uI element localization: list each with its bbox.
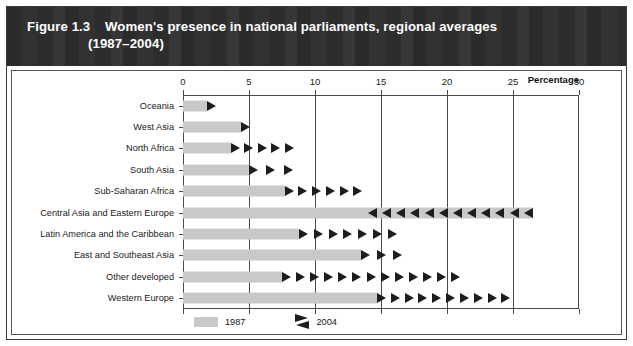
category-label: Sub-Saharan Africa <box>94 186 174 196</box>
category-label: South Asia <box>130 165 174 175</box>
marker-triangle-right <box>282 272 291 282</box>
marker-triangle-right <box>258 143 267 153</box>
marker-triangle-right <box>432 293 441 303</box>
marker-trail-2004 <box>368 207 533 219</box>
category-label: Oceania <box>140 101 174 111</box>
chart-area: Percentage 051015202530 OceaniaWest Asia… <box>12 71 623 336</box>
bar-1987 <box>183 229 299 240</box>
marker-trail-2004 <box>299 228 397 240</box>
axis-caption-percentage: Percentage <box>528 74 579 85</box>
marker-triangle-right <box>488 293 497 303</box>
chart-row: Central Asia and Eastern Europe <box>183 202 579 223</box>
marker-triangle-right <box>377 250 386 260</box>
marker-triangle-right <box>271 143 280 153</box>
marker-triangle-left <box>396 208 405 218</box>
marker-triangle-left <box>510 208 519 218</box>
bar-1987 <box>183 164 249 175</box>
marker-triangle-right <box>353 186 362 196</box>
marker-triangle-right <box>381 272 390 282</box>
marker-triangle-left <box>524 208 533 218</box>
marker-triangle-right <box>340 186 349 196</box>
tick-bottom-20 <box>447 309 448 314</box>
marker-triangle-right <box>460 293 469 303</box>
marker-triangle-right <box>207 101 216 111</box>
marker-triangle-left <box>467 208 476 218</box>
bar-1987 <box>183 186 285 197</box>
marker-trail-2004 <box>377 292 510 304</box>
marker-triangle-left <box>382 208 391 218</box>
marker-triangle-left <box>368 208 377 218</box>
marker-triangle-right <box>437 272 446 282</box>
chart-row: Western Europe <box>183 288 579 309</box>
figure-title: Figure 1.3 Women's presence in national … <box>27 18 587 52</box>
marker-triangle-right <box>446 293 455 303</box>
bar-1987 <box>183 100 207 111</box>
marker-triangle-right <box>284 165 293 175</box>
tick-bottom-25 <box>513 309 514 314</box>
bar-1987 <box>183 293 377 304</box>
marker-triangle-right <box>310 272 319 282</box>
chart-row: Sub-Saharan Africa <box>183 181 579 202</box>
marker-triangle-right <box>285 143 294 153</box>
chart-row: North Africa <box>183 138 579 159</box>
chart-row: Oceania <box>183 95 579 116</box>
marker-triangle-left <box>481 208 490 218</box>
legend-label-1987: 1987 <box>225 317 245 327</box>
marker-triangle-right <box>244 143 253 153</box>
marker-triangle-right <box>358 229 367 239</box>
bar-1987 <box>183 143 231 154</box>
marker-trail-2004 <box>361 249 402 261</box>
figure-number: Figure 1.3 <box>27 19 90 34</box>
marker-triangle-right <box>423 272 432 282</box>
chart-row: South Asia <box>183 159 579 180</box>
marker-trail-2004 <box>249 164 293 176</box>
figure-1-3: Figure 1.3 Women's presence in national … <box>0 0 633 346</box>
marker-triangle-right <box>231 143 240 153</box>
marker-triangle-left <box>425 208 434 218</box>
marker-triangle-right <box>298 186 307 196</box>
x-tick-label-15: 15 <box>376 76 387 87</box>
figure-subtitle: (1987–2004) <box>88 35 587 52</box>
category-label: Latin America and the Caribbean <box>40 229 174 239</box>
marker-trail-2004 <box>241 121 252 133</box>
tick-bottom-0 <box>183 309 184 314</box>
marker-triangle-right <box>395 272 404 282</box>
marker-trail-2004 <box>231 142 294 154</box>
marker-triangle-right <box>326 186 335 196</box>
chart-legend: 1987 2004 <box>194 314 337 329</box>
marker-trail-2004 <box>285 185 363 197</box>
marker-triangle-right <box>361 250 370 260</box>
x-tick-label-10: 10 <box>310 76 321 87</box>
marker-triangle-right <box>405 293 414 303</box>
marker-triangle-left <box>495 208 504 218</box>
marker-trail-2004 <box>282 271 460 283</box>
marker-triangle-right <box>299 229 308 239</box>
x-tick-label-20: 20 <box>442 76 453 87</box>
marker-triangle-right <box>241 122 250 132</box>
chart-row: Latin America and the Caribbean <box>183 223 579 244</box>
legend-label-2004: 2004 <box>316 317 336 327</box>
category-label: North Africa <box>126 143 174 153</box>
category-label: Western Europe <box>108 293 174 303</box>
marker-triangle-right <box>373 229 382 239</box>
x-tick-label-25: 25 <box>508 76 519 87</box>
x-tick-label-5: 5 <box>246 76 251 87</box>
marker-triangle-right <box>367 272 376 282</box>
chart-row: Other developed <box>183 266 579 287</box>
marker-triangle-right <box>388 229 397 239</box>
legend-swatch-1987 <box>194 317 218 327</box>
tick-top-30 <box>579 90 580 95</box>
marker-triangle-left <box>410 208 419 218</box>
chart-row: West Asia <box>183 116 579 137</box>
plot-region: 051015202530 OceaniaWest AsiaNorth Afric… <box>183 95 579 309</box>
category-label: East and Southeast Asia <box>74 250 174 260</box>
marker-triangle-right <box>312 186 321 196</box>
marker-triangle-right <box>324 272 333 282</box>
bar-1987 <box>183 122 241 133</box>
category-label: Other developed <box>106 272 174 282</box>
marker-triangle-right <box>266 165 275 175</box>
category-label: West Asia <box>133 122 174 132</box>
marker-triangle-right <box>501 293 510 303</box>
legend-marker-2004-icon <box>295 314 309 329</box>
marker-triangle-right <box>343 229 352 239</box>
